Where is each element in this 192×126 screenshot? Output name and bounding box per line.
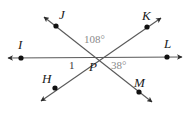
point-L xyxy=(164,54,169,59)
point-label-J: J xyxy=(59,8,65,21)
point-J xyxy=(53,23,58,28)
vertex-label-P: P xyxy=(89,60,97,73)
angle-label-108: 108° xyxy=(84,34,105,45)
point-label-L: L xyxy=(164,37,171,50)
angle-label-1: 1 xyxy=(69,60,75,71)
point-K xyxy=(144,24,149,29)
point-H xyxy=(52,85,57,90)
point-M xyxy=(136,89,141,94)
point-label-K: K xyxy=(142,9,151,22)
point-label-I: I xyxy=(18,38,22,51)
point-label-M: M xyxy=(134,76,145,89)
point-label-H: H xyxy=(42,72,51,85)
angle-label-38: 38° xyxy=(111,60,126,71)
geometry-figure: J K I L H M P 108° 38° 1 xyxy=(0,0,192,126)
point-I xyxy=(18,55,23,60)
